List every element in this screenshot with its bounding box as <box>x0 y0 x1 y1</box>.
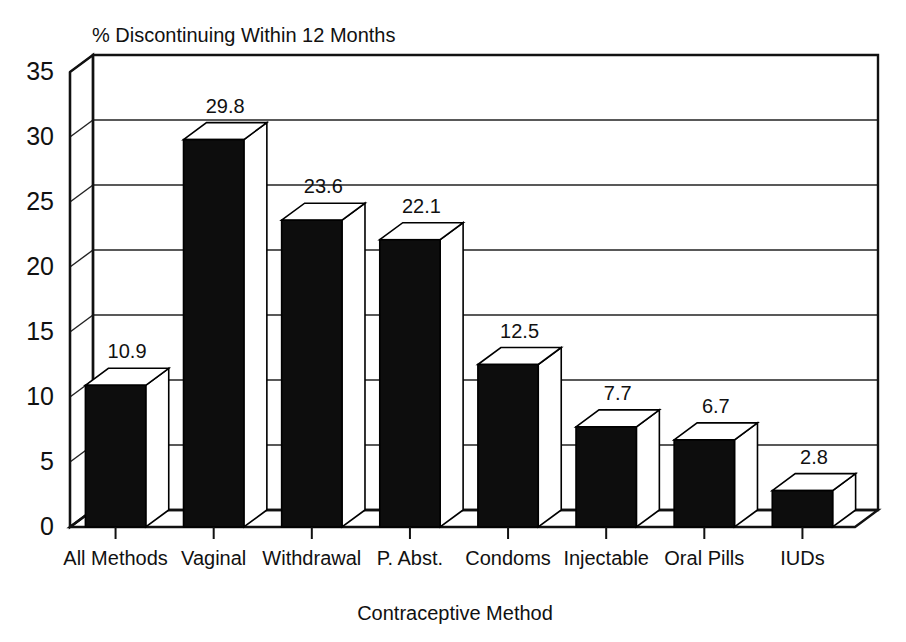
x-axis-tick-label: All Methods <box>63 547 168 569</box>
bar-injectable[interactable] <box>576 410 659 527</box>
x-axis-labels-group: All MethodsVaginalWithdrawalP. Abst.Cond… <box>63 547 824 569</box>
bar-value-label: 22.1 <box>402 195 441 217</box>
bar-all-methods[interactable] <box>85 368 168 527</box>
y-axis-tick-label: 10 <box>26 382 54 410</box>
x-axis-tick-label: Vaginal <box>181 547 246 569</box>
x-axis-ticks-group <box>116 527 803 539</box>
bar-value-label: 2.8 <box>800 446 828 468</box>
y-axis-tick-label: 5 <box>40 447 54 475</box>
y-axis-tick-label: 15 <box>26 317 54 345</box>
y-axis-tick-label: 20 <box>26 252 54 280</box>
bar-iuds[interactable] <box>772 474 855 527</box>
x-axis-tick-label: Injectable <box>563 547 649 569</box>
bar-p-abst[interactable] <box>380 223 463 527</box>
y-axis-ticks-group: 05101520253035 <box>26 57 54 540</box>
y-axis-tick-label: 0 <box>40 512 54 540</box>
chart-container: % Discontinuing Within 12 Months 0510152… <box>0 0 906 642</box>
x-axis-title: Contraceptive Method <box>357 602 553 624</box>
bar-oral-pills[interactable] <box>674 423 757 527</box>
bars-group <box>85 123 855 527</box>
y-axis-tick-label: 25 <box>26 187 54 215</box>
bar-value-label: 10.9 <box>108 340 147 362</box>
x-axis-tick-label: Condoms <box>465 547 551 569</box>
bar-withdrawal[interactable] <box>282 203 365 527</box>
bar-value-label: 7.7 <box>604 382 632 404</box>
y-axis-tick-label: 30 <box>26 122 54 150</box>
y-axis-tick-label: 35 <box>26 57 54 85</box>
chart-title: % Discontinuing Within 12 Months <box>92 24 395 46</box>
bar-value-label: 29.8 <box>206 95 245 117</box>
bar-value-label: 6.7 <box>702 395 730 417</box>
x-axis-tick-label: Oral Pills <box>664 547 744 569</box>
x-axis-tick-label: Withdrawal <box>262 547 361 569</box>
x-axis-tick-label: P. Abst. <box>377 547 443 569</box>
bar-condoms[interactable] <box>478 348 561 528</box>
bar-value-label: 23.6 <box>304 175 343 197</box>
bar-vaginal[interactable] <box>184 123 267 527</box>
x-axis-tick-label: IUDs <box>780 547 824 569</box>
bar-value-label: 12.5 <box>500 320 539 342</box>
bar-chart-3d: % Discontinuing Within 12 Months 0510152… <box>0 0 906 642</box>
